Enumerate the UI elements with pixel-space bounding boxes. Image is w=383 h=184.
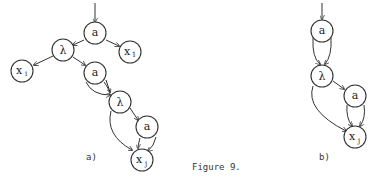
node-a-xj: x j (131, 149, 153, 171)
svg-text:a: a (92, 26, 99, 39)
node-b-xj: x j (344, 126, 366, 148)
figure-9-diagram: a x 1 λ x i a λ a x j a) Figure 9. (0, 0, 383, 184)
svg-text:λ: λ (319, 70, 326, 83)
svg-text:x: x (136, 153, 143, 166)
node-b-apply-root: a (311, 20, 333, 42)
node-a-lambda-2: λ (109, 91, 131, 113)
svg-text:a: a (144, 120, 151, 133)
node-a-apply-2: a (84, 62, 106, 84)
svg-text:j: j (144, 160, 147, 168)
svg-text:x: x (349, 130, 356, 143)
svg-text:a: a (352, 89, 359, 102)
svg-text:λ: λ (117, 96, 124, 109)
svg-text:x: x (124, 45, 131, 58)
svg-text:x: x (16, 64, 23, 77)
node-a-lambda: λ (52, 39, 74, 61)
node-a-apply-root: a (84, 22, 106, 44)
svg-text:a: a (92, 66, 99, 79)
svg-text:λ: λ (60, 44, 67, 57)
svg-text:1: 1 (132, 51, 136, 59)
diagram-a-label: a) (86, 152, 97, 162)
diagram-b-label: b) (319, 152, 330, 162)
node-b-lambda: λ (311, 65, 333, 87)
svg-text:a: a (319, 24, 326, 37)
figure-caption: Figure 9. (192, 162, 241, 172)
node-b-apply-2: a (344, 85, 366, 107)
node-a-xi: x i (11, 60, 33, 82)
node-a-x1: x 1 (119, 41, 141, 63)
svg-text:j: j (357, 137, 360, 145)
node-a-apply-3: a (136, 116, 158, 138)
